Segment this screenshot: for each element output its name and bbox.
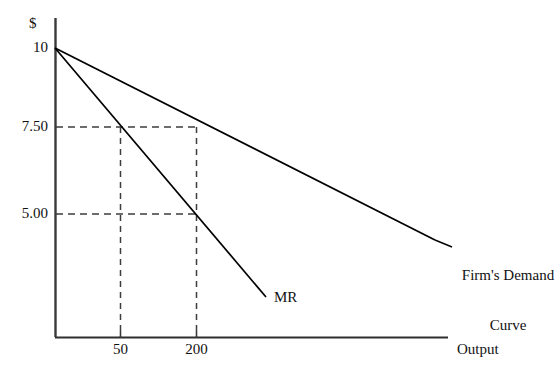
mr-curve-label: MR	[274, 289, 297, 306]
x-tick-label-50: 50	[101, 341, 140, 358]
y-axis-title: $	[29, 15, 37, 32]
y-tick-label-10: 10	[10, 39, 48, 56]
mr-curve-line	[55, 48, 266, 297]
x-tick-label-200: 200	[173, 341, 220, 358]
demand-curve-line	[55, 48, 435, 240]
demand-curve-label-line2: Curve	[458, 317, 558, 334]
chart-canvas: $ 10 7.50 5.00 50 200 Output Firm's Dema…	[0, 0, 558, 370]
demand-curve-label: Firm's Demand Curve	[458, 233, 558, 367]
demand-curve-label-line1: Firm's Demand	[458, 267, 558, 284]
y-tick-label-500: 5.00	[2, 205, 48, 222]
demand-curve-leader	[435, 240, 452, 247]
y-tick-label-750: 7.50	[2, 118, 48, 135]
